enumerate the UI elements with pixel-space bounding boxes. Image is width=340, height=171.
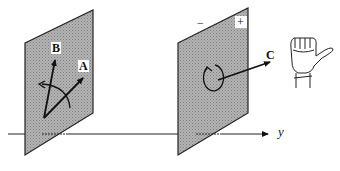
right-hand-rule-icon (291, 38, 333, 88)
left-plane (25, 10, 93, 155)
vector-c-label: C (265, 49, 276, 61)
cross-product-diagram: B A C − + y (0, 0, 340, 171)
y-axis-label: y (278, 125, 284, 138)
vector-a-label: A (78, 60, 89, 72)
right-plane (178, 8, 248, 155)
plus-sign: + (237, 16, 244, 28)
diagram-canvas (0, 0, 340, 171)
vector-b-label: B (51, 42, 61, 54)
minus-sign: − (197, 17, 204, 29)
